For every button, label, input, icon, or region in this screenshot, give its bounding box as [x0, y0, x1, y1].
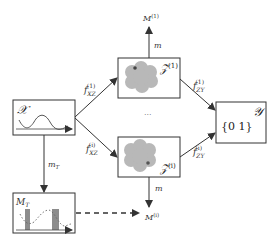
mt-box: MT: [13, 193, 75, 233]
edge-x-to-z1: fXZ(1): [75, 78, 117, 117]
mt-mask-bar-1: [25, 209, 30, 230]
mi-node-label: M(i): [144, 212, 159, 222]
ellipsis: ···: [144, 110, 152, 119]
edge-z1-to-y: fZY(1): [180, 78, 215, 110]
edge-zi-to-y: fZY(i): [180, 133, 215, 159]
mt-mask-bar-2: [52, 209, 59, 230]
edge-x-to-zi-label: fXZ(i): [85, 141, 99, 156]
m1-node: M(1): [142, 13, 159, 23]
edge-x-to-z1-label: fXZ(1): [83, 82, 97, 97]
edge-z1-to-m1: m: [149, 27, 162, 58]
mi-node: M(i): [144, 212, 159, 222]
y-box-values: {0 1}: [221, 120, 253, 133]
edge-x-to-mt-label: mT: [48, 160, 60, 170]
zi-box: 𝒵(i): [118, 137, 180, 177]
z1-box: 𝒵(1): [118, 58, 180, 98]
m1-node-label: M(1): [142, 13, 159, 23]
edge-zi-to-mi: m: [149, 177, 163, 207]
zi-sample-point: [146, 161, 150, 165]
edge-zi-to-y-label: fZY(i): [192, 144, 206, 159]
edge-z1-to-y-label: fZY(1): [192, 78, 206, 93]
x-box: 𝒳: [13, 100, 75, 135]
edge-z1-to-m1-label: m: [154, 41, 162, 50]
edge-x-to-mt: mT: [44, 135, 60, 192]
z1-sample-point: [133, 66, 137, 70]
edge-x-to-zi: fXZ(i): [75, 118, 117, 157]
diagram-canvas: 𝒳 𝒵(1) 𝒵(i) ··· 𝒴 {0 1} MT: [0, 0, 277, 245]
edge-zi-to-mi-label: m: [155, 184, 163, 193]
y-box: 𝒴 {0 1}: [216, 102, 266, 143]
